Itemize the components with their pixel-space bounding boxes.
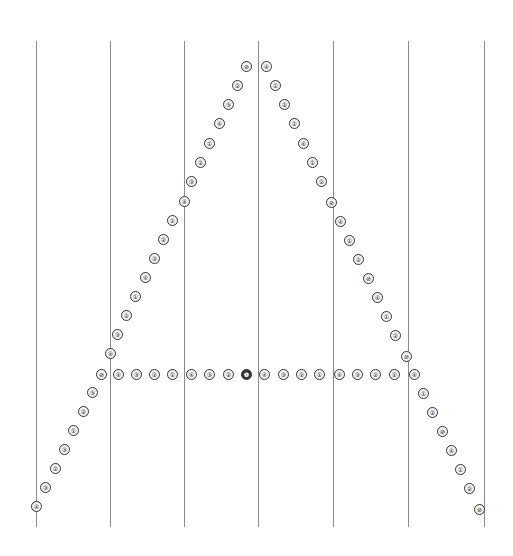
stroke-dot-icon: ② bbox=[296, 369, 307, 380]
stroke-dot-icon: ④ bbox=[261, 61, 272, 72]
guide-line bbox=[484, 41, 485, 527]
stroke-dot-icon: ⊘ bbox=[363, 273, 374, 284]
stroke-dot-icon: ② bbox=[427, 407, 438, 418]
stroke-dot-icon: ① bbox=[344, 235, 355, 246]
stroke-dot-icon: ④ bbox=[334, 369, 345, 380]
guide-line bbox=[258, 41, 259, 527]
stroke-dot-icon: ④ bbox=[298, 138, 309, 149]
stroke-dot-icon: ② bbox=[279, 99, 290, 110]
stroke-dot-icon: ② bbox=[195, 157, 206, 168]
stroke-dot-icon: ④ bbox=[372, 292, 383, 303]
stroke-dot-icon: ③ bbox=[149, 253, 160, 264]
stroke-dot-icon: ① bbox=[289, 118, 300, 129]
stroke-dot-icon: ① bbox=[204, 138, 215, 149]
stroke-dot-icon: ④ bbox=[214, 118, 225, 129]
stroke-dot-icon: ③ bbox=[204, 369, 215, 380]
stroke-dot-icon: ③ bbox=[40, 482, 51, 493]
stroke-dot-icon: ② bbox=[370, 369, 381, 380]
stroke-dot-icon: ② bbox=[464, 483, 475, 494]
stroke-dot-icon: ① bbox=[130, 291, 141, 302]
guide-line bbox=[333, 41, 334, 527]
stroke-dot-icon: ② bbox=[223, 369, 234, 380]
guide-line bbox=[36, 41, 37, 527]
stroke-dot-icon: ① bbox=[381, 311, 392, 322]
stroke-dot-icon: ① bbox=[418, 388, 429, 399]
stroke-dot-icon: ④ bbox=[113, 369, 124, 380]
stroke-dot-icon: ③ bbox=[186, 176, 197, 187]
stroke-dot-icon: ⊘ bbox=[96, 369, 107, 380]
stroke-dot-icon: ④ bbox=[409, 369, 420, 380]
stroke-dot-icon: ④ bbox=[179, 196, 190, 207]
stroke-dot-icon: ③ bbox=[278, 369, 289, 380]
stroke-dot-icon: ④ bbox=[186, 369, 197, 380]
stroke-dot-icon: ② bbox=[78, 406, 89, 417]
guide-line bbox=[184, 41, 185, 527]
stroke-dot-icon: ① bbox=[68, 425, 79, 436]
stroke-dot-icon: ⊘ bbox=[474, 504, 485, 515]
stroke-dot-icon: ⊘ bbox=[437, 426, 448, 437]
stroke-dot-icon: ② bbox=[390, 330, 401, 341]
stroke-dot-icon: ⊘ bbox=[401, 351, 412, 362]
stroke-dot-icon: ④ bbox=[335, 216, 346, 227]
guide-line bbox=[110, 41, 111, 527]
letter-a-stroke-diagram: ⊘②③④①②③④①②③④①②③④⊘③②①③②③④ ④①②①④①②⊘④①②⊘④①②… bbox=[0, 0, 513, 556]
stroke-dot-icon: ① bbox=[270, 80, 281, 91]
stroke-dot-icon: ② bbox=[353, 254, 364, 265]
stroke-dot-icon: ③ bbox=[87, 387, 98, 398]
stroke-dot-icon: ③ bbox=[59, 444, 70, 455]
stroke-dot-icon: ② bbox=[316, 176, 327, 187]
stroke-dot-icon: ④ bbox=[31, 501, 42, 512]
stroke-dot-icon: ⊘ bbox=[326, 197, 337, 208]
stroke-dot-icon: ② bbox=[121, 310, 132, 321]
stroke-dot-icon: ③ bbox=[223, 99, 234, 110]
guide-line bbox=[408, 41, 409, 527]
stroke-dot-icon: ② bbox=[232, 80, 243, 91]
stroke-dot-icon: ③ bbox=[131, 369, 142, 380]
stroke-dot-icon: ① bbox=[167, 369, 178, 380]
stroke-dot-icon: ② bbox=[158, 234, 169, 245]
stroke-dot-icon: ③ bbox=[352, 369, 363, 380]
stroke-dot-icon: ① bbox=[389, 369, 400, 380]
stroke-dot-icon: ① bbox=[314, 369, 325, 380]
stroke-dot-icon: ① bbox=[307, 157, 318, 168]
stroke-dot-icon: ④ bbox=[140, 272, 151, 283]
stroke-dot-icon: ② bbox=[50, 463, 61, 474]
stroke-dot-icon: ② bbox=[149, 369, 160, 380]
stroke-dot-icon: ⊘ bbox=[241, 61, 252, 72]
stroke-dot-icon: ❶ bbox=[241, 369, 252, 380]
stroke-dot-icon: ③ bbox=[112, 329, 123, 340]
stroke-dot-icon: ① bbox=[455, 464, 466, 475]
stroke-dot-icon: ④ bbox=[259, 369, 270, 380]
stroke-dot-icon: ④ bbox=[446, 445, 457, 456]
stroke-dot-icon: ① bbox=[167, 215, 178, 226]
stroke-dot-icon: ④ bbox=[105, 348, 116, 359]
